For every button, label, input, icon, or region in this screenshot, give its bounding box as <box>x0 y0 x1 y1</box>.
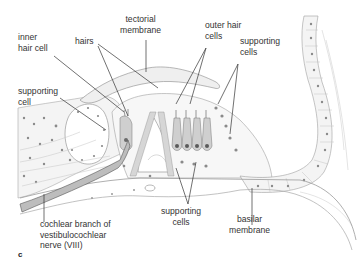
label-line: cell <box>18 97 58 108</box>
label-line: hair cell <box>18 43 48 54</box>
label-line: supporting <box>18 86 58 97</box>
organ-of-corti <box>112 94 272 178</box>
label-line: nerve (VIII) <box>40 240 111 251</box>
label-supporting-cells-bottom: supporting cells <box>161 206 201 227</box>
label-line: basilar <box>229 214 270 225</box>
label-line: cochlear branch of <box>40 219 111 230</box>
label-inner-hair-cell: inner hair cell <box>18 32 48 53</box>
label-hairs: hairs <box>75 36 94 47</box>
label-supporting-cells-top: supporting cells <box>240 36 280 57</box>
label-line: inner <box>18 32 48 43</box>
label-supporting-cell: supporting cell <box>18 86 58 107</box>
label-line: vestibulocochlear <box>40 230 111 241</box>
label-tectorial-membrane: tectorial membrane <box>120 14 161 35</box>
label-line: membrane <box>120 25 161 36</box>
panel-letter: c <box>18 250 22 259</box>
spiral-limbus <box>18 96 128 198</box>
label-line: supporting <box>161 206 201 217</box>
label-line: membrane <box>229 225 270 236</box>
label-line: supporting <box>240 36 280 47</box>
label-basilar-membrane: basilar membrane <box>229 214 270 235</box>
label-line: tectorial <box>120 14 161 25</box>
label-outer-hair-cells: outer hair cells <box>205 20 241 41</box>
label-line: cells <box>205 31 241 42</box>
label-cochlear-nerve: cochlear branch of vestibulocochlear ner… <box>40 219 111 251</box>
label-line: cells <box>240 47 280 58</box>
label-line: outer hair <box>205 20 241 31</box>
label-line: cells <box>161 217 201 228</box>
